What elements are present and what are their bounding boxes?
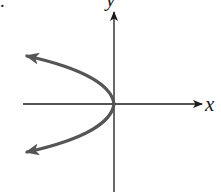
- parabola-graph: . y x: [0, 0, 221, 192]
- x-axis-label: x: [205, 92, 214, 117]
- parabola-lower-branch: [27, 104, 114, 152]
- graph-canvas: [0, 0, 221, 192]
- parabola-upper-branch: [27, 56, 114, 104]
- part-label: .: [0, 0, 5, 12]
- y-axis-label: y: [106, 0, 115, 12]
